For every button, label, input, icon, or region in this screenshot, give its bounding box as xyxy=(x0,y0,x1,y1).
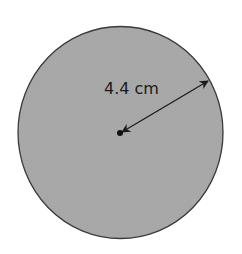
center-point xyxy=(117,130,123,136)
radius-label: 4.4 cm xyxy=(104,79,159,98)
circle-diagram: 4.4 cm xyxy=(0,0,242,254)
